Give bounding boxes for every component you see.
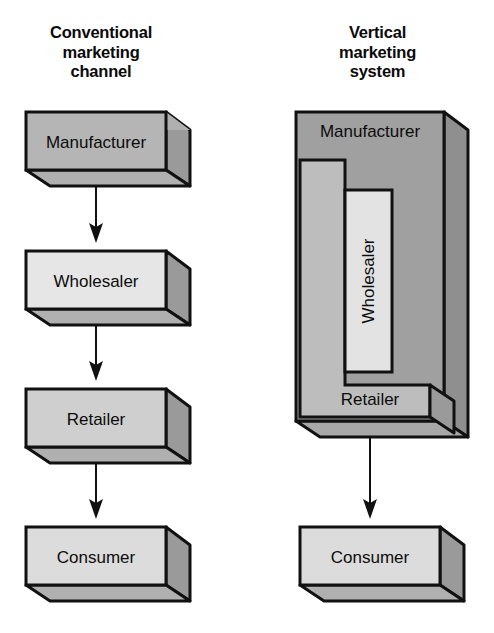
retailer-left-label: Retailer [67,410,126,429]
manufacturer-right-side-face [444,112,468,437]
consumer-left-bottom-face [26,585,190,601]
manufacturer-right-label: Manufacturer [320,122,420,141]
node-wholesaler-left[interactable]: Wholesaler [26,251,190,325]
connector-retailer-to-consumer-left [89,461,103,519]
consumer-right-label: Consumer [331,548,410,567]
node-retailer-left[interactable]: Retailer [26,389,190,463]
connector-mfr-to-wholesaler-left [89,186,103,243]
consumer-right-bottom-face [300,585,464,601]
wholesaler-right-label: Wholesaler [359,238,378,323]
manufacturer-left-bottom-face [26,170,190,186]
diagram-canvas: Conventional marketing channel Vertical … [0,0,494,633]
connector-retailer-to-consumer-right [363,437,377,519]
manufacturer-left-label: Manufacturer [46,133,146,152]
node-manufacturer-left[interactable]: Manufacturer [26,112,190,186]
node-consumer-left[interactable]: Consumer [26,527,190,601]
wholesaler-left-label: Wholesaler [53,272,138,291]
connector-wholesaler-to-retailer-left [89,322,103,381]
retailer-right-label: Retailer [341,390,400,409]
channel-structure-illustration: Manufacturer Wholesaler Retailer Consume… [0,0,494,633]
node-wholesaler-right[interactable]: Wholesaler [345,190,392,372]
wholesaler-left-bottom-face [26,309,190,325]
consumer-left-label: Consumer [57,548,136,567]
retailer-left-bottom-face [26,447,190,463]
node-consumer-right[interactable]: Consumer [300,527,464,601]
